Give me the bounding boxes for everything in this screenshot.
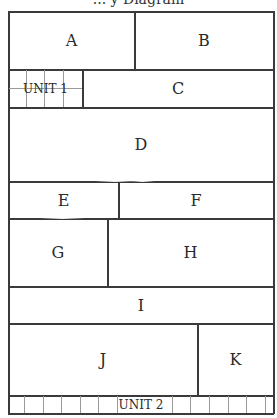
unit-2: UNIT 2 <box>9 396 273 413</box>
frame-right <box>273 11 275 414</box>
unit-1: UNIT 1 <box>9 70 82 107</box>
room-k: K <box>198 324 273 395</box>
room-i: I <box>9 287 273 323</box>
room-c: C <box>83 70 273 107</box>
room-f: F <box>119 182 273 218</box>
room-d: D <box>9 108 273 181</box>
room-j: J <box>9 324 197 395</box>
room-b: B <box>135 12 273 69</box>
room-h: H <box>108 219 273 286</box>
frame-bottom <box>8 413 274 415</box>
diagram-title: ... y Diagram <box>0 0 277 7</box>
room-e: E <box>9 182 118 218</box>
room-g: G <box>9 219 107 286</box>
room-a: A <box>9 12 134 69</box>
